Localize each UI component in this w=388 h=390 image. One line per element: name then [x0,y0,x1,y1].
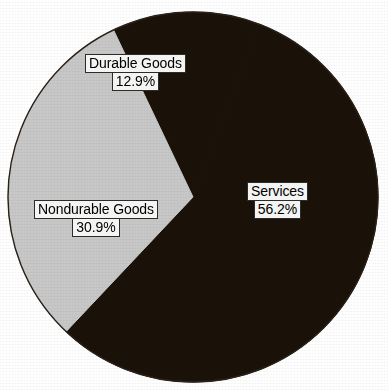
slice-label-services[interactable]: Services 56.2% [247,182,308,219]
pie-chart-canvas [0,0,388,390]
slice-label-services-name: Services [247,182,308,201]
slice-label-durable-goods-value: 12.9% [112,72,159,91]
slice-label-nondurable-goods[interactable]: Nondurable Goods 30.9% [34,200,158,237]
slice-label-durable-goods[interactable]: Durable Goods 12.9% [85,54,186,91]
slice-label-services-value: 56.2% [254,200,301,219]
pie-chart: Durable Goods 12.9% Services 56.2% Nondu… [0,0,388,390]
slice-label-durable-goods-name: Durable Goods [85,54,186,73]
slice-label-nondurable-goods-name: Nondurable Goods [34,200,158,219]
slice-label-nondurable-goods-value: 30.9% [72,218,119,237]
